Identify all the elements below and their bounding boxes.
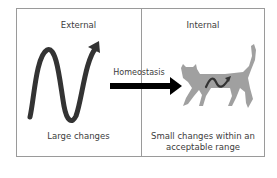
external-caption: Large changes xyxy=(16,131,141,142)
internal-caption-line1: Small changes within an xyxy=(141,131,265,142)
right-arrow-icon xyxy=(110,77,182,95)
internal-caption-line2: acceptable range xyxy=(141,142,265,153)
large-wave-icon xyxy=(30,41,100,121)
cat-icon xyxy=(181,44,256,108)
homeostasis-label: Homeostasis xyxy=(104,67,174,78)
